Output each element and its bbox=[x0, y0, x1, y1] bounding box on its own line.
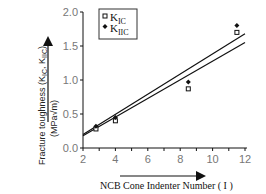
up-arrow-icon bbox=[43, 36, 53, 46]
fit-line bbox=[83, 43, 245, 136]
fit-lines bbox=[83, 34, 245, 136]
x-tick-label: 4 bbox=[112, 153, 118, 165]
x-tick-label: 6 bbox=[145, 153, 151, 165]
svg-text:Fracture toughness (KIC, KIIC): Fracture toughness (KIC, KIIC) bbox=[37, 46, 48, 165]
x-tick-label: 8 bbox=[177, 153, 183, 165]
legend: KIC KIIC bbox=[99, 9, 137, 39]
y-tick-label: 0.5 bbox=[63, 108, 78, 120]
legend-square-marker-icon bbox=[103, 14, 107, 18]
svg-text:(MPa√m): (MPa√m) bbox=[49, 100, 59, 137]
fracture-toughness-chart: 0.00.51.01.52.0 24681012 Fracture toughn… bbox=[0, 0, 266, 194]
y-tick-label: 0.0 bbox=[63, 142, 78, 154]
kic-point bbox=[186, 87, 190, 91]
x-tick-label: 10 bbox=[206, 153, 218, 165]
kiic-point bbox=[234, 23, 239, 28]
kiic-point bbox=[186, 80, 191, 85]
y-tick-label: 1.0 bbox=[63, 74, 78, 86]
x-axis-label: NCB Cone Indenter Number ( I ) bbox=[100, 180, 233, 192]
y-tick-label: 1.5 bbox=[63, 40, 78, 52]
x-ticks: 24681012 bbox=[80, 148, 251, 165]
x-tick-label: 2 bbox=[80, 153, 86, 165]
y-ticks: 0.00.51.01.52.0 bbox=[63, 6, 83, 154]
kic-point bbox=[235, 30, 239, 34]
x-tick-label: 12 bbox=[239, 153, 251, 165]
fit-line bbox=[83, 34, 245, 135]
y-tick-label: 2.0 bbox=[63, 6, 78, 18]
